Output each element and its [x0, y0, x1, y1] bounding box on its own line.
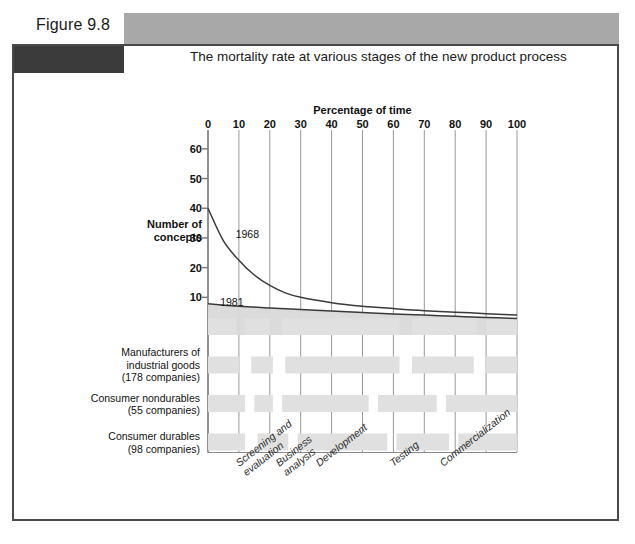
stage-label-line: Commercialization: [437, 405, 512, 468]
bar-row-label-line: (98 companies): [40, 442, 200, 455]
x-axis-title: Percentage of time: [0, 104, 635, 116]
x-axis-tick-label: 80: [449, 118, 461, 130]
bar-row-label-line: Manufacturers of: [40, 346, 200, 359]
stage-label-line: Development: [313, 420, 369, 468]
x-axis-tick-label: 90: [480, 118, 492, 130]
stage-label-line: Testing: [387, 438, 421, 468]
bar-row-label: Consumer nondurables(55 companies): [40, 391, 200, 416]
x-axis-tick-label: 100: [508, 118, 526, 130]
bar-row-label-line: (178 companies): [40, 371, 200, 384]
x-axis-tick-label: 70: [418, 118, 430, 130]
x-axis-tick-label: 40: [325, 118, 337, 130]
bar-row-label-line: Consumer nondurables: [40, 391, 200, 404]
x-axis-tick-label: 30: [295, 118, 307, 130]
x-axis-tick-label: 10: [233, 118, 245, 130]
y-axis-tick-label: 10: [178, 291, 202, 303]
bar-row-label-line: Consumer durables: [40, 430, 200, 443]
curve-annotation-1981: 1981: [220, 296, 243, 308]
y-axis-tick-label: 20: [178, 262, 202, 274]
bar-row-label-line: (55 companies): [40, 404, 200, 417]
x-axis-tick-label: 20: [264, 118, 276, 130]
y-axis-title-line: Number of: [118, 218, 202, 231]
y-axis-tick-label: 30: [178, 232, 202, 244]
bar-row-label: Consumer durables(98 companies): [40, 430, 200, 455]
x-axis-tick-label: 50: [356, 118, 368, 130]
x-axis-tick-label: 60: [387, 118, 399, 130]
bar-row-label: Manufacturers ofindustrial goods(178 com…: [40, 346, 200, 384]
curve-annotation-1968: 1968: [236, 228, 259, 240]
y-axis-tick-label: 60: [178, 143, 202, 155]
y-axis-tick-label: 40: [178, 202, 202, 214]
stage-label: Commercialization: [437, 405, 512, 468]
y-axis-tick-label: 50: [178, 173, 202, 185]
bar-row-label-line: industrial goods: [40, 359, 200, 372]
stage-label: Testing: [387, 438, 421, 468]
figure-container: Figure 9.8 The mortality rate at various…: [0, 0, 635, 544]
x-axis-tick-label: 0: [205, 118, 211, 130]
stage-label: Development: [313, 420, 369, 468]
chart-overlay-labels: Percentage of time Number ofconcepts 010…: [0, 0, 635, 544]
